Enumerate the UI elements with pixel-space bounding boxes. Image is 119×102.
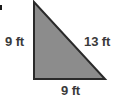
right-triangle-shape bbox=[0, 0, 119, 102]
label-hypotenuse: 13 ft bbox=[84, 35, 110, 48]
edge-artifact-mark bbox=[0, 5, 2, 10]
geometry-figure: 9 ft 13 ft 9 ft bbox=[0, 0, 119, 102]
label-left-leg: 9 ft bbox=[5, 35, 24, 48]
label-base: 9 ft bbox=[61, 84, 80, 97]
